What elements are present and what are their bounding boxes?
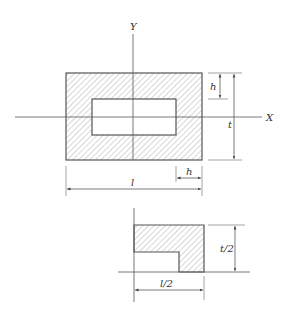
dim-t-label: t xyxy=(228,119,233,130)
quarter-hatched-area xyxy=(134,225,204,272)
x-axis-label: X xyxy=(265,112,274,123)
dim-l-half-label: l/2 xyxy=(160,278,173,289)
hatched-area xyxy=(66,73,202,160)
dim-h-horizontal-label: h xyxy=(186,166,192,177)
dim-t-half-label: t/2 xyxy=(220,243,234,254)
quarter-section: t/2 l/2 xyxy=(118,208,250,302)
dim-l-label: l xyxy=(131,177,134,188)
section-diagram: Y X h t h l t/2 l/ xyxy=(0,0,289,316)
y-axis-label: Y xyxy=(130,21,138,32)
dim-h-vertical-label: h xyxy=(210,81,216,92)
full-section: Y X h t h l xyxy=(15,21,274,196)
